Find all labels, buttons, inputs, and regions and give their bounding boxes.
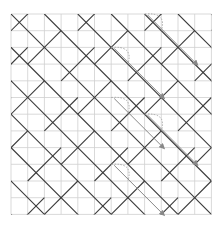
tile-edge-rung — [0, 181, 11, 214]
tile-edge-diagonal — [78, 14, 221, 232]
tile-edge-rung — [211, 81, 221, 114]
tile-edge-rung — [111, 0, 144, 14]
tile-edge-diagonal — [178, 14, 221, 232]
annotations — [111, 14, 198, 216]
tile-edge-rung — [211, 0, 221, 31]
annotation-arrow — [114, 165, 164, 215]
tile-edge-rung — [44, 0, 77, 14]
dotted-arc — [111, 164, 129, 181]
tile-edge-diagonal — [0, 14, 178, 232]
tile-edge-rung — [0, 0, 11, 14]
dotted-arc — [111, 97, 129, 114]
tile-edge-rung — [211, 198, 221, 231]
tile-edge-rung — [178, 0, 211, 14]
tile-edge-diagonal — [0, 14, 145, 232]
tile-edge-diagonal — [0, 14, 11, 232]
tile-edge-rung — [28, 231, 61, 232]
herringbone-diagram — [0, 0, 221, 232]
tile-edge-diagonal — [0, 14, 44, 232]
annotation-arrow — [114, 99, 164, 149]
tile-edge-rung — [95, 231, 128, 232]
tile-edges — [0, 0, 221, 232]
tile-edge-rung — [0, 98, 11, 131]
tile-edge-diagonal — [211, 14, 221, 232]
tile-edge-rung — [161, 231, 194, 232]
tile-edge-diagonal — [0, 14, 78, 232]
